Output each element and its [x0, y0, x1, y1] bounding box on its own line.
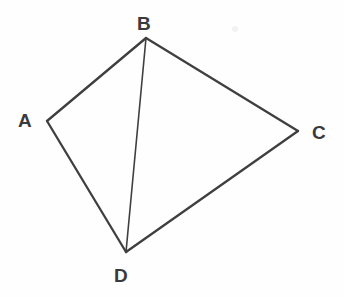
- edge-da: [47, 121, 126, 252]
- vertex-label-b: B: [137, 14, 151, 33]
- edge-cd: [126, 131, 298, 252]
- edge-bc: [146, 38, 298, 131]
- geometry-figure: A B C D: [0, 0, 344, 297]
- vertex-label-c: C: [312, 123, 326, 142]
- vertex-label-a: A: [18, 111, 32, 130]
- edge-layer: [47, 38, 298, 252]
- edge-ab: [47, 38, 146, 121]
- vertex-label-d: D: [114, 266, 128, 285]
- edge-bd: [126, 38, 146, 252]
- geometry-canvas: [0, 0, 344, 297]
- scan-artifact-speck: [232, 26, 238, 32]
